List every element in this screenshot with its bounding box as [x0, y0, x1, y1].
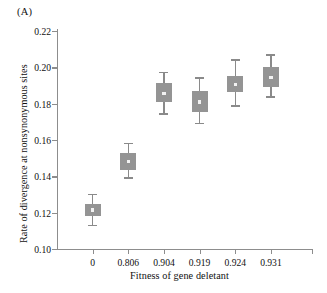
whisker-cap-lower: [88, 225, 97, 227]
whisker-cap-lower: [159, 113, 168, 115]
x-axis-tick: [164, 249, 165, 254]
y-axis-tick: [52, 176, 57, 177]
median-marker: [198, 100, 201, 103]
whisker-cap-upper: [266, 54, 275, 56]
median-marker: [91, 208, 94, 211]
whisker-cap-upper: [88, 194, 97, 196]
y-axis-tick-label: 0.12: [11, 207, 51, 218]
y-axis-tick: [52, 249, 57, 250]
whisker-cap-lower: [124, 177, 133, 179]
x-axis-tick-label: 0.931: [241, 257, 301, 268]
median-marker: [234, 83, 237, 86]
x-axis-end-tick: [312, 249, 313, 254]
median-marker: [269, 76, 272, 79]
x-axis-tick: [128, 249, 129, 254]
whisker-cap-upper: [159, 72, 168, 74]
x-axis-title: Fitness of gene deletant: [98, 270, 229, 281]
y-axis-tick-label: 0.10: [11, 244, 51, 255]
x-axis-tick: [235, 249, 236, 254]
y-axis-line: [57, 29, 58, 250]
x-axis-title-container: Fitness of gene deletant: [0, 270, 327, 281]
median-marker: [162, 92, 165, 95]
y-axis-tick: [52, 104, 57, 105]
y-axis-tick-label: 0.18: [11, 98, 51, 109]
whisker-cap-lower: [231, 105, 240, 107]
x-axis-tick: [271, 249, 272, 254]
whisker-cap-lower: [266, 96, 275, 98]
whisker-cap-upper: [124, 143, 133, 145]
median-marker: [127, 160, 130, 163]
y-axis-tick: [52, 67, 57, 68]
y-axis-tick: [52, 31, 57, 32]
whisker-cap-upper: [195, 77, 204, 79]
figure-panel-a: (A) Rate of divergence at nonsynonymous …: [0, 0, 327, 293]
y-axis-tick-label: 0.20: [11, 62, 51, 73]
x-axis-tick: [93, 249, 94, 254]
y-axis-tick-label: 0.16: [11, 135, 51, 146]
whisker-cap-lower: [195, 123, 204, 125]
x-axis-tick: [200, 249, 201, 254]
x-axis-line: [57, 249, 313, 250]
y-axis-tick-label: 0.14: [11, 171, 51, 182]
whisker-cap-upper: [231, 59, 240, 61]
y-axis-tick: [52, 213, 57, 214]
y-axis-tick: [52, 140, 57, 141]
plot-area: 0.100.120.140.160.180.200.22 00.8060.904…: [57, 29, 313, 250]
y-axis-tick-label: 0.22: [11, 26, 51, 37]
